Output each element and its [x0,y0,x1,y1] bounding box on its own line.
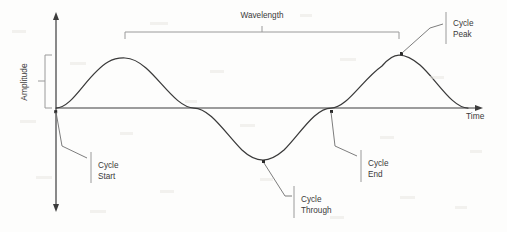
cycle-start-annotation: Cycle Start [54,110,119,183]
cycle-start-label-line2: Start [98,172,116,181]
cycle-end-label-line2: End [368,170,383,179]
cycle-end-annotation: Cycle End [330,110,389,182]
cycle-trough-label-line1: Cycle [301,195,322,204]
cycle-end-leader-line [331,112,357,156]
cycle-peak-label-line1: Cycle [453,19,474,28]
axes-group [53,12,483,212]
cycle-trough-leader-line [264,163,292,196]
cycle-trough-label-line2: Through [301,206,332,215]
amplitude-label: Amplitude [19,63,29,101]
wave-diagram-canvas: Wavelength Amplitude Time Cycle Start Cy… [0,0,507,232]
time-axis-label: Time [466,111,485,121]
y-axis-arrow-down-icon [53,204,59,212]
wavelength-label: Wavelength [241,11,284,20]
y-axis-arrow-up-icon [53,12,59,20]
cycle-start-leader-line [56,112,87,158]
cycle-trough-annotation: Cycle Through [262,160,332,218]
cycle-end-label-line1: Cycle [368,159,389,168]
cycle-trough-marker-dot [262,160,265,163]
wavelength-bracket [125,26,399,39]
cycle-peak-leader-line [402,24,443,53]
sine-wave-diagram: Wavelength Amplitude Time Cycle Start Cy… [0,0,507,232]
cycle-peak-label-line2: Peak [453,30,473,39]
cycle-start-label-line1: Cycle [98,161,119,170]
amplitude-bracket-shape [45,55,52,108]
amplitude-bracket [38,55,52,108]
cycle-peak-annotation: Cycle Peak [400,12,474,55]
wavelength-bracket-shape [125,32,399,39]
